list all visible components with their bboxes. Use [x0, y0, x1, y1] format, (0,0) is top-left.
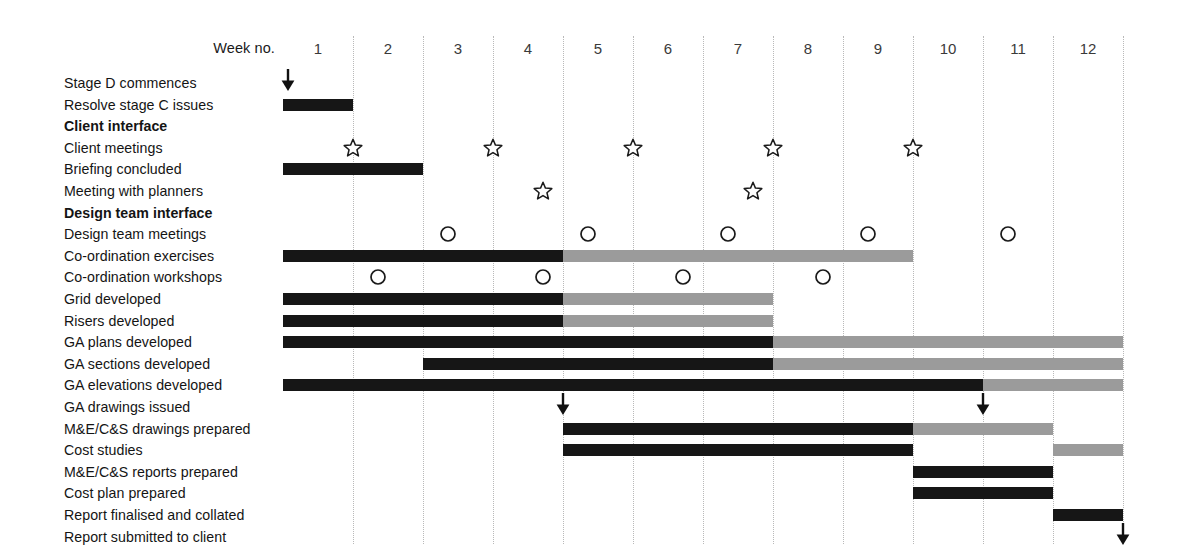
task-row-label: Co-ordination workshops — [64, 266, 276, 288]
task-row-label: GA sections developed — [64, 353, 276, 375]
task-row: Resolve stage C issues — [0, 94, 1179, 116]
gantt-bar-black — [1053, 509, 1123, 521]
task-row: Stage D commences — [0, 72, 1179, 94]
task-row: GA plans developed — [0, 331, 1179, 353]
gantt-bar-black — [283, 163, 423, 175]
gantt-bar-grey — [983, 379, 1123, 391]
task-row: Report finalised and collated — [0, 504, 1179, 526]
task-row: Grid developed — [0, 288, 1179, 310]
task-row-label: Briefing concluded — [64, 158, 276, 180]
gantt-bar-grey — [563, 293, 773, 305]
task-row-label: M&E/C&S drawings prepared — [64, 418, 276, 440]
star-milestone-icon — [762, 137, 784, 159]
task-row-label: Grid developed — [64, 288, 276, 310]
circle-milestone-icon — [717, 223, 739, 245]
task-row: GA sections developed — [0, 353, 1179, 375]
task-row-label: GA plans developed — [64, 331, 276, 353]
gantt-bar-black — [283, 336, 773, 348]
task-row: Report submitted to client — [0, 526, 1179, 548]
gantt-bar-black — [563, 423, 913, 435]
gantt-bar-black — [913, 487, 1053, 499]
circle-milestone-icon — [812, 266, 834, 288]
gantt-bar-grey — [773, 358, 1123, 370]
gantt-bar-black — [423, 358, 773, 370]
week-header-2: 2 — [353, 40, 423, 57]
task-row: Design team interface — [0, 202, 1179, 224]
gantt-bar-grey — [913, 423, 1053, 435]
gantt-bar-grey — [563, 250, 913, 262]
task-row-label: Report submitted to client — [64, 526, 276, 548]
gantt-bar-black — [283, 99, 353, 111]
task-row-label: Report finalised and collated — [64, 504, 276, 526]
star-milestone-icon — [532, 180, 554, 202]
task-row-label: Client meetings — [64, 137, 276, 159]
task-row-label: Co-ordination exercises — [64, 245, 276, 267]
gantt-chart: Week no. 123456789101112 Stage D commenc… — [0, 0, 1179, 559]
down-arrow-icon — [974, 392, 992, 418]
task-row-label: Meeting with planners — [64, 180, 276, 202]
gantt-bar-black — [283, 379, 983, 391]
week-header-7: 7 — [703, 40, 773, 57]
gantt-bar-black — [283, 315, 563, 327]
circle-milestone-icon — [532, 266, 554, 288]
task-row: Design team meetings — [0, 223, 1179, 245]
task-row-label: Resolve stage C issues — [64, 94, 276, 116]
task-row-label: M&E/C&S reports prepared — [64, 461, 276, 483]
circle-milestone-icon — [997, 223, 1019, 245]
star-milestone-icon — [482, 137, 504, 159]
gantt-bar-grey — [1053, 444, 1123, 456]
week-header-6: 6 — [633, 40, 703, 57]
task-row-label: Stage D commences — [64, 72, 276, 94]
task-row: Co-ordination exercises — [0, 245, 1179, 267]
task-row-label: Design team meetings — [64, 223, 276, 245]
down-arrow-icon — [1114, 522, 1132, 548]
task-row: Meeting with planners — [0, 180, 1179, 202]
task-row: Cost studies — [0, 439, 1179, 461]
circle-milestone-icon — [672, 266, 694, 288]
task-row: Risers developed — [0, 310, 1179, 332]
star-milestone-icon — [902, 137, 924, 159]
task-row: Briefing concluded — [0, 158, 1179, 180]
task-row: M&E/C&S reports prepared — [0, 461, 1179, 483]
task-row: GA drawings issued — [0, 396, 1179, 418]
circle-milestone-icon — [437, 223, 459, 245]
task-row: Client meetings — [0, 137, 1179, 159]
task-group-label: Design team interface — [64, 202, 276, 224]
task-row-label: Risers developed — [64, 310, 276, 332]
week-header-9: 9 — [843, 40, 913, 57]
task-row-label: Cost studies — [64, 439, 276, 461]
circle-milestone-icon — [857, 223, 879, 245]
week-header-3: 3 — [423, 40, 493, 57]
circle-milestone-icon — [367, 266, 389, 288]
down-arrow-icon — [554, 392, 572, 418]
gantt-bar-grey — [563, 315, 773, 327]
gantt-bar-black — [283, 293, 563, 305]
star-milestone-icon — [742, 180, 764, 202]
task-row: Co-ordination workshops — [0, 266, 1179, 288]
gantt-bar-grey — [773, 336, 1123, 348]
star-milestone-icon — [342, 137, 364, 159]
circle-milestone-icon — [577, 223, 599, 245]
task-row: M&E/C&S drawings prepared — [0, 418, 1179, 440]
week-header-11: 11 — [983, 40, 1053, 57]
gantt-bar-black — [283, 250, 563, 262]
task-row-label: GA drawings issued — [64, 396, 276, 418]
task-row: Client interface — [0, 115, 1179, 137]
week-header-5: 5 — [563, 40, 633, 57]
week-header-8: 8 — [773, 40, 843, 57]
week-header-12: 12 — [1053, 40, 1123, 57]
down-arrow-icon — [279, 68, 297, 94]
task-row-label: GA elevations developed — [64, 374, 276, 396]
gantt-bar-black — [913, 466, 1053, 478]
task-row: GA elevations developed — [0, 374, 1179, 396]
task-group-label: Client interface — [64, 115, 276, 137]
task-row: Cost plan prepared — [0, 482, 1179, 504]
star-milestone-icon — [622, 137, 644, 159]
week-header-10: 10 — [913, 40, 983, 57]
week-no-label: Week no. — [213, 40, 275, 56]
week-header-1: 1 — [283, 40, 353, 57]
gantt-bar-black — [563, 444, 913, 456]
task-row-label: Cost plan prepared — [64, 482, 276, 504]
week-header-4: 4 — [493, 40, 563, 57]
